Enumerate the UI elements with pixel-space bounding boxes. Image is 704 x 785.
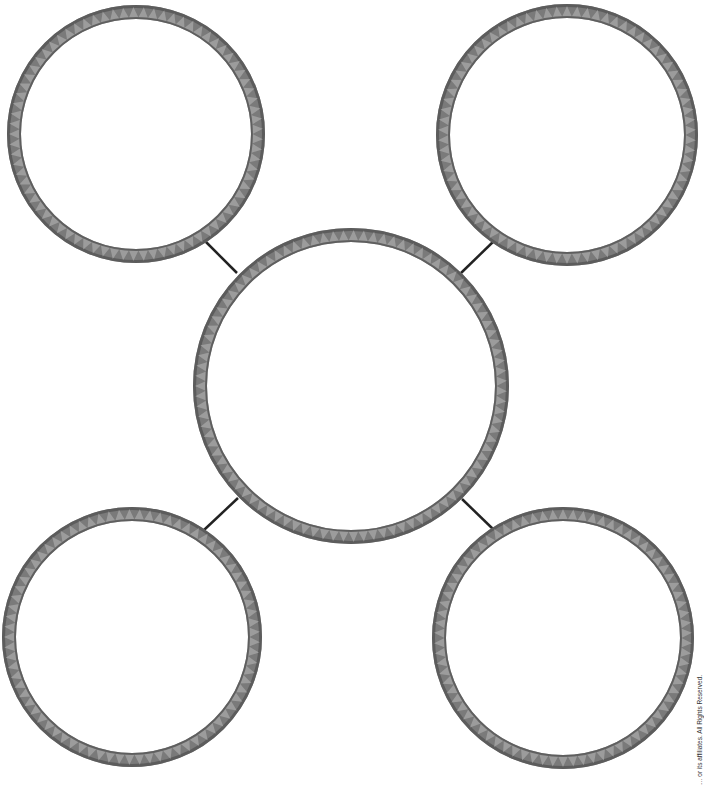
web-diagram (0, 0, 704, 785)
bottom-right-circle[interactable] (434, 509, 693, 768)
center-circle[interactable] (195, 230, 508, 543)
bottom-left-circle[interactable] (4, 509, 261, 766)
top-right-circle[interactable] (438, 6, 697, 265)
connector-center-to-bottom-right (462, 499, 494, 530)
connector-center-to-bottom-left (204, 498, 238, 530)
top-left-circle[interactable] (9, 7, 264, 262)
connector-center-to-top-left (204, 240, 237, 273)
connector-center-to-top-right (461, 240, 495, 273)
copyright-notice: … or its affiliates. All Rights Reserved… (695, 675, 704, 785)
circle-nodes (4, 6, 697, 768)
